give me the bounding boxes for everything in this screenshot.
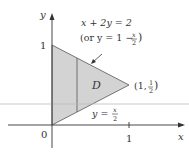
upper-frac-den: 2 bbox=[132, 39, 136, 47]
vertex-frac-num: 1 bbox=[149, 79, 153, 87]
region-d bbox=[52, 45, 129, 125]
vertex-frac-den: 2 bbox=[149, 87, 153, 95]
upper-curve-equation: x + 2y = 2 bbox=[81, 17, 132, 28]
lower-frac-den: 2 bbox=[113, 115, 117, 123]
upper-close: ) bbox=[138, 31, 142, 44]
x-axis-label: x bbox=[178, 131, 184, 142]
upper-frac-num: x bbox=[132, 31, 136, 39]
region-label: D bbox=[91, 79, 101, 92]
x-axis-arrow-icon bbox=[178, 123, 185, 128]
region-diagram: y 1 0 1 x D x + 2y = 2 (or y = 1 − x 2 )… bbox=[0, 0, 189, 156]
lower-frac-num: x bbox=[113, 106, 117, 114]
vertex-close: ) bbox=[154, 79, 158, 92]
vertex-label: (1, bbox=[134, 80, 147, 91]
lower-curve-equation: y = bbox=[91, 108, 108, 119]
x-tick-label: 1 bbox=[126, 133, 132, 144]
upper-curve-alt: (or y = 1 − bbox=[80, 32, 133, 43]
y-axis-arrow-icon bbox=[50, 13, 55, 20]
origin-label: 0 bbox=[41, 129, 47, 140]
y-tick-label: 1 bbox=[40, 40, 46, 51]
y-axis-label: y bbox=[39, 9, 46, 20]
